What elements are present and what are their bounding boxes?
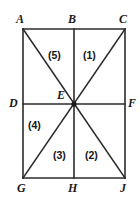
geometry-figure: ABCDEFGHJ (5)(1)(4)(3)(2) xyxy=(0,0,140,204)
figure-canvas xyxy=(0,0,140,204)
vertex-label-b: B xyxy=(68,13,76,25)
vertex-label-f: F xyxy=(128,97,136,109)
region-label-r3: (3) xyxy=(53,150,66,161)
vertex-label-e: E xyxy=(57,89,65,101)
region-label-r4: (4) xyxy=(28,120,41,131)
region-label-r2: (2) xyxy=(85,150,98,161)
region-label-r1: (1) xyxy=(83,50,96,61)
vertex-label-g: G xyxy=(17,182,26,194)
vertex-dots-group xyxy=(71,101,76,106)
vertex-label-d: D xyxy=(9,97,18,109)
region-label-r5: (5) xyxy=(48,50,61,61)
vertex-label-c: C xyxy=(119,13,127,25)
vertex-label-j: J xyxy=(120,182,126,194)
vertex-dot-e xyxy=(71,101,76,106)
vertex-label-a: A xyxy=(16,13,24,25)
vertex-label-h: H xyxy=(68,182,77,194)
